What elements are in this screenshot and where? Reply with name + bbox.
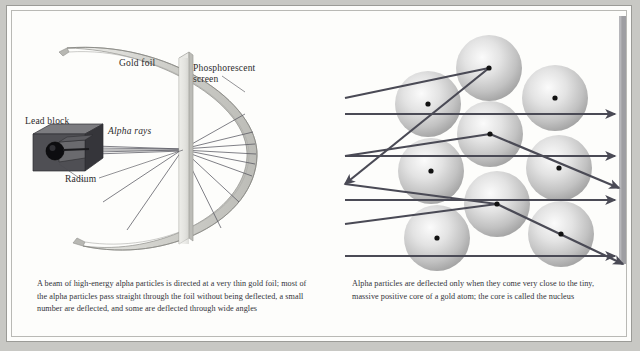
label-alpha-rays: Alpha rays <box>108 126 151 137</box>
atom-lattice-illustration <box>327 6 632 271</box>
leader-radium-beam <box>99 150 183 178</box>
left-diagram-panel: Gold foil Phosphorescent screen Lead blo… <box>7 6 327 271</box>
label-lead-block: Lead block <box>25 116 69 127</box>
right-panel-caption: Alpha particles are deflected only when … <box>352 278 620 303</box>
label-radium: Radium <box>65 174 96 185</box>
left-panel-caption: A beam of high-energy alpha particles is… <box>37 278 313 316</box>
lead-block <box>33 124 103 171</box>
gold-foil <box>179 52 193 244</box>
right-diagram-panel <box>327 6 632 271</box>
figure-page: Gold foil Phosphorescent screen Lead blo… <box>6 5 632 342</box>
label-phosphorescent-screen: Phosphorescent screen <box>193 63 255 85</box>
radium-source <box>46 142 64 160</box>
label-gold-foil: Gold foil <box>119 58 155 69</box>
apparatus-illustration <box>7 6 327 271</box>
